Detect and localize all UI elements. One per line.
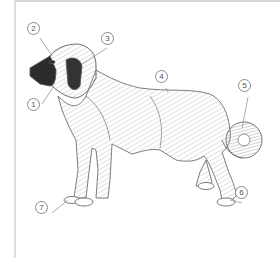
- callout-1: 1: [27, 98, 40, 111]
- dog-paws: [64, 183, 235, 207]
- callout-5: 5: [238, 79, 251, 92]
- callout-3: 3: [101, 32, 114, 45]
- dog-head: [30, 44, 96, 98]
- dog-illustration: [0, 0, 280, 258]
- callout-6: 6: [235, 186, 248, 199]
- callout-2: 2: [27, 22, 40, 35]
- callout-7: 7: [35, 201, 48, 214]
- callout-4: 4: [155, 70, 168, 83]
